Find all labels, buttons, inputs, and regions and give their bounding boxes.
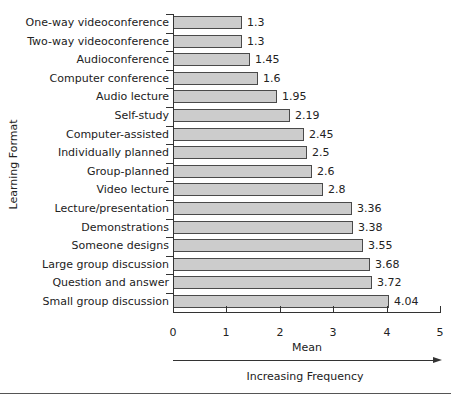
- y-tick: [166, 144, 173, 145]
- bar: [173, 90, 277, 103]
- y-tick: [166, 274, 173, 275]
- value-label: 2.5: [312, 146, 330, 160]
- category-label: Audioconference: [77, 53, 170, 67]
- value-label: 3.36: [357, 202, 382, 216]
- y-tick: [166, 181, 173, 182]
- x-tick: [226, 306, 227, 312]
- bar: [173, 128, 304, 141]
- x-tick: [173, 306, 174, 312]
- value-label: 3.55: [368, 239, 393, 253]
- bar: [173, 239, 363, 252]
- category-label: Two-way videoconference: [27, 35, 169, 49]
- x-axis-title: Mean: [273, 341, 341, 354]
- category-label: Large group discussion: [42, 258, 169, 272]
- annotation-label: Increasing Frequency: [220, 370, 390, 383]
- y-tick: [166, 33, 173, 34]
- category-label: Video lecture: [96, 183, 169, 197]
- bar: [173, 295, 389, 308]
- value-label: 2.19: [295, 109, 320, 123]
- y-tick: [166, 126, 173, 127]
- category-label: Computer-assisted: [66, 128, 169, 142]
- y-tick: [166, 51, 173, 52]
- value-label: 1.3: [247, 35, 265, 49]
- bar: [173, 35, 242, 48]
- bar: [173, 72, 258, 85]
- category-label: Group-planned: [87, 165, 169, 179]
- x-tick-label: 5: [430, 326, 450, 339]
- y-tick: [166, 237, 173, 238]
- y-tick: [166, 88, 173, 89]
- x-tick: [333, 306, 334, 312]
- value-label: 2.45: [309, 128, 334, 142]
- arrowhead-icon: [433, 357, 442, 363]
- category-label: Demonstrations: [81, 221, 169, 235]
- bar: [173, 221, 353, 234]
- category-label: Self-study: [114, 109, 169, 123]
- value-label: 1.6: [263, 72, 281, 86]
- y-tick: [166, 14, 173, 15]
- bar: [173, 109, 290, 122]
- y-tick: [166, 107, 173, 108]
- y-tick: [166, 293, 173, 294]
- x-tick: [387, 306, 388, 312]
- x-tick-label: 3: [323, 326, 343, 339]
- bar: [173, 276, 372, 289]
- y-tick: [166, 70, 173, 71]
- value-label: 2.6: [317, 165, 335, 179]
- category-label: Lecture/presentation: [55, 202, 169, 216]
- x-tick-label: 2: [270, 326, 290, 339]
- x-tick-label: 1: [216, 326, 236, 339]
- category-label: Someone designs: [72, 239, 169, 253]
- frequency-arrow: [173, 360, 435, 361]
- bar: [173, 146, 307, 159]
- category-label: Computer conference: [50, 72, 169, 86]
- value-label: 4.04: [394, 295, 419, 309]
- bar: [173, 165, 312, 178]
- category-label: Question and answer: [52, 276, 169, 290]
- value-label: 1.45: [255, 53, 280, 67]
- y-tick: [166, 219, 173, 220]
- y-tick: [166, 163, 173, 164]
- x-tick: [280, 306, 281, 312]
- y-tick: [166, 256, 173, 257]
- bar: [173, 53, 250, 66]
- bar: [173, 16, 242, 29]
- category-label: One-way videoconference: [26, 16, 169, 30]
- x-tick-label: 0: [163, 326, 183, 339]
- value-label: 2.8: [328, 183, 346, 197]
- value-label: 1.95: [282, 90, 307, 104]
- bottom-rule: [0, 393, 451, 394]
- value-label: 3.38: [358, 221, 383, 235]
- y-tick: [166, 200, 173, 201]
- value-label: 3.68: [375, 258, 400, 272]
- bar: [173, 258, 370, 271]
- bar: [173, 183, 323, 196]
- x-tick-label: 4: [377, 326, 397, 339]
- category-label: Small group discussion: [43, 295, 170, 309]
- y-axis-line: [173, 14, 174, 313]
- x-tick: [440, 306, 441, 312]
- category-label: Individually planned: [58, 146, 169, 160]
- value-label: 3.72: [377, 276, 402, 290]
- x-axis-line: [173, 312, 441, 313]
- value-label: 1.3: [247, 16, 265, 30]
- y-axis-title: Learning Format: [7, 115, 20, 215]
- category-label: Audio lecture: [96, 90, 169, 104]
- bar: [173, 202, 352, 215]
